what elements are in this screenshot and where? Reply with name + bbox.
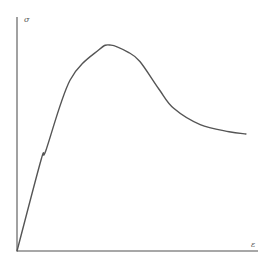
- x-axis-label: ε: [251, 240, 255, 249]
- stress-strain-curve: [17, 45, 246, 251]
- y-axis-label: σ: [24, 15, 30, 24]
- stress-strain-chart: σ ε: [0, 0, 266, 265]
